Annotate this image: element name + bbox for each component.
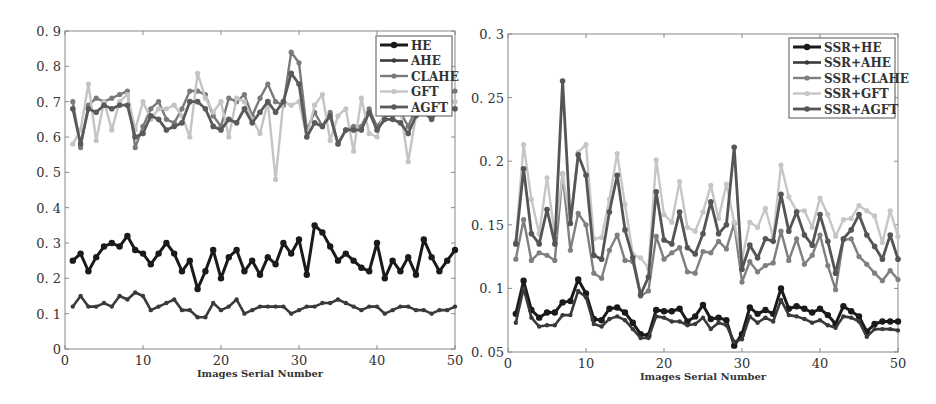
line-chart-right: 0. 050. 10. 150. 20. 250. 301020304050Im…	[0, 0, 936, 404]
legend-label: SSR+AGFT	[824, 103, 898, 117]
series-ssr-clahe	[513, 171, 900, 298]
x-tick-label: 20	[656, 356, 673, 371]
legend-label: SSR+HE	[824, 41, 882, 55]
legend-label: SSR+CLAHE	[824, 72, 909, 86]
x-tick-label: 40	[812, 356, 829, 371]
legend-label: SSR+AHE	[824, 56, 891, 70]
x-tick-label: 10	[578, 356, 595, 371]
y-tick-label: 0. 15	[471, 218, 504, 233]
y-tick-label: 0. 1	[479, 281, 504, 296]
y-tick-label: 0. 3	[479, 27, 504, 42]
x-tick-label: 50	[890, 356, 907, 371]
y-tick-label: 0. 25	[471, 91, 504, 106]
legend-label: SSR+GFT	[824, 87, 889, 101]
chart-right: 0. 050. 10. 150. 20. 250. 301020304050Im…	[0, 0, 936, 404]
x-axis-label: Images Serial Number	[640, 371, 767, 382]
x-tick-label: 30	[734, 356, 751, 371]
x-tick-label: 0	[504, 356, 512, 371]
y-tick-label: 0. 05	[471, 345, 504, 360]
y-tick-label: 0. 2	[479, 154, 504, 169]
legend: SSR+HESSR+AHESSR+CLAHESSR+GFTSSR+AGFT	[789, 38, 909, 118]
